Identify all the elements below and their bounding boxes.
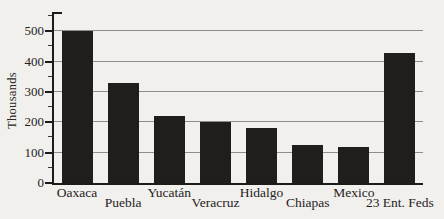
y-minor-tick [48,106,52,107]
bar [154,116,185,183]
x-category-label: Chiapas [286,196,330,209]
y-minor-tick [48,76,52,77]
y-axis-line [52,12,54,183]
plot-area: 0100200300400500 [54,10,423,183]
x-category-label: Puebla [105,196,142,209]
bar-chart: Thousands 0100200300400500 OaxacaPueblaY… [0,0,444,219]
y-minor-tick [48,136,52,137]
gridline [54,30,423,31]
x-category-label: Oaxaca [57,186,97,199]
y-minor-tick [48,45,52,46]
bar [338,147,369,183]
y-tick-label: 300 [2,85,44,99]
y-tick-label: 400 [2,55,44,69]
x-axis-labels: OaxacaPueblaYucatánVeracruzHidalgoChiapa… [0,183,444,219]
x-category-label: Hidalgo [240,186,284,199]
y-tick-label: 100 [2,146,44,160]
y-minor-tick [48,15,52,16]
bar [246,128,277,183]
y-tick-label: 500 [2,24,44,38]
y-major-tick [45,61,52,63]
x-category-label: 23 Ent. Feds [366,196,434,209]
x-category-label: Yucatán [148,186,191,199]
bar [292,145,323,183]
y-minor-tick [48,167,52,168]
bar [108,83,139,183]
bar [200,122,231,183]
bar [62,31,93,183]
y-axis-top-tick [54,12,62,14]
y-major-tick [45,152,52,154]
gridline [54,61,423,62]
x-category-label: Veracruz [191,196,239,209]
bar [384,53,415,184]
y-tick-label: 200 [2,115,44,129]
y-major-tick [45,121,52,123]
y-major-tick [45,30,52,32]
y-major-tick [45,91,52,93]
